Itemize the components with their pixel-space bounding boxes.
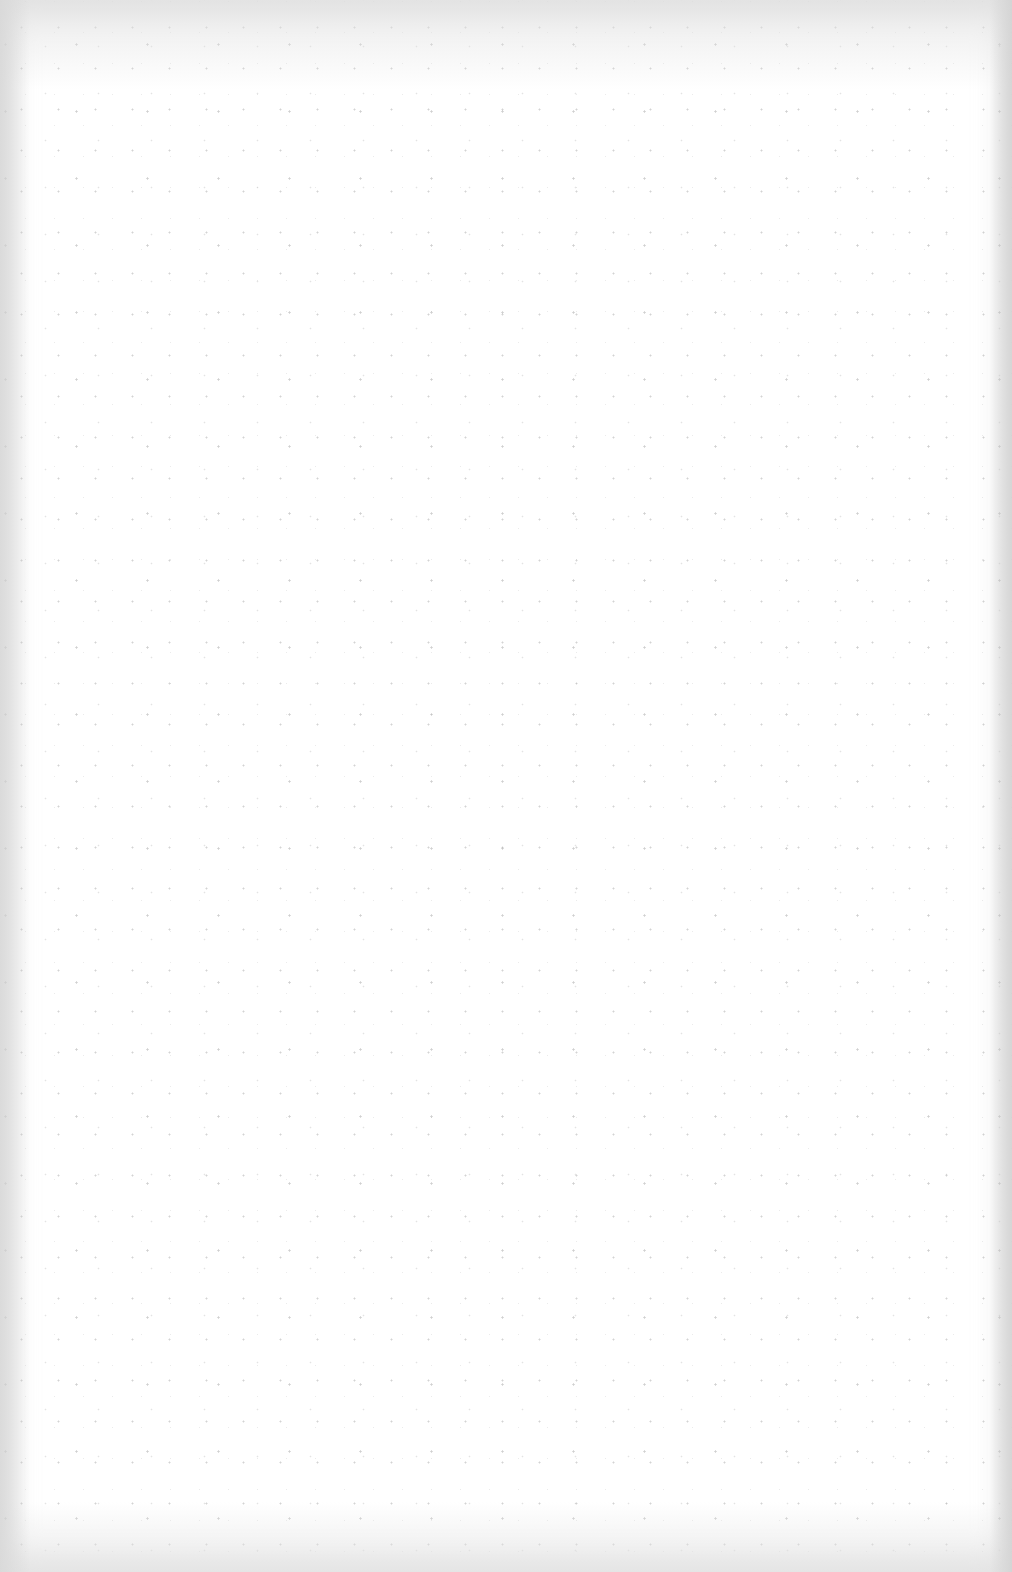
scan-edge-shadow-bottom [0, 1502, 1012, 1572]
blank-page [0, 0, 1012, 1572]
scan-noise [0, 0, 1012, 1572]
scan-edge-shadow-top [0, 0, 1012, 90]
scan-edge-shadow-left [0, 0, 30, 1572]
scan-edge-shadow-right [990, 0, 1012, 1572]
